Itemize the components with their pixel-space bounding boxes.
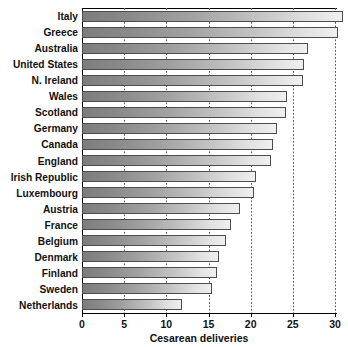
bar-united-states [82, 59, 304, 70]
bar-austria [82, 203, 240, 214]
category-label-austria: Austria [0, 203, 78, 214]
bar-finland [82, 267, 217, 278]
x-tick-25 [293, 313, 294, 317]
bar-england [82, 155, 271, 166]
category-label-luxembourg: Luxembourg [0, 187, 78, 198]
x-tick-5 [124, 313, 125, 317]
bar-canada [82, 139, 273, 150]
bar-scotland [82, 107, 286, 118]
x-tick-20 [251, 313, 252, 317]
bar-australia [82, 43, 308, 54]
bar-wales [82, 91, 287, 102]
bar-denmark [82, 251, 219, 262]
x-tick-label-30: 30 [329, 318, 341, 330]
x-tick-15 [209, 313, 210, 317]
gridline-30 [335, 8, 336, 313]
bar-irish-republic [82, 171, 256, 182]
category-label-netherlands: Netherlands [0, 299, 78, 310]
category-label-australia: Australia [0, 43, 78, 54]
gridline-25 [293, 8, 294, 313]
plot-top-rule [82, 8, 337, 9]
x-tick-label-0: 0 [79, 318, 85, 330]
bar-sweden [82, 283, 212, 294]
category-label-denmark: Denmark [0, 251, 78, 262]
x-tick-label-25: 25 [287, 318, 299, 330]
x-axis-title: Cesarean deliveries [0, 332, 348, 344]
bar-belgium [82, 235, 226, 246]
category-label-canada: Canada [0, 139, 78, 150]
x-tick-0 [82, 313, 83, 317]
category-label-scotland: Scotland [0, 107, 78, 118]
category-label-n-ireland: N. Ireland [0, 75, 78, 86]
bar-germany [82, 123, 277, 134]
category-label-germany: Germany [0, 123, 78, 134]
category-label-england: England [0, 155, 78, 166]
category-label-france: France [0, 219, 78, 230]
x-tick-label-10: 10 [160, 318, 172, 330]
x-tick-label-20: 20 [245, 318, 257, 330]
bar-luxembourg [82, 187, 254, 198]
category-label-irish-republic: Irish Republic [0, 171, 78, 182]
category-label-finland: Finland [0, 267, 78, 278]
cesarean-deliveries-bar-chart: 051015202530 ItalyGreeceAustraliaUnited … [0, 0, 348, 347]
category-label-wales: Wales [0, 91, 78, 102]
bar-n-ireland [82, 75, 303, 86]
x-tick-10 [166, 313, 167, 317]
bar-greece [82, 27, 338, 38]
category-label-united-states: United States [0, 59, 78, 70]
bar-france [82, 219, 231, 230]
x-axis-line [82, 313, 337, 314]
category-label-greece: Greece [0, 27, 78, 38]
category-label-italy: Italy [0, 11, 78, 22]
category-label-belgium: Belgium [0, 235, 78, 246]
category-label-sweden: Sweden [0, 283, 78, 294]
x-tick-30 [335, 313, 336, 317]
x-tick-label-5: 5 [121, 318, 127, 330]
x-tick-label-15: 15 [203, 318, 215, 330]
bar-italy [82, 11, 343, 22]
bar-netherlands [82, 299, 182, 310]
